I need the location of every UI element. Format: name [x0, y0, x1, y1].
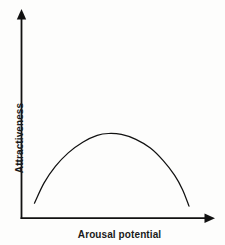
x-axis-arrowhead-icon	[205, 213, 216, 223]
chart-plot-area	[0, 0, 225, 245]
y-axis-label: Attractiveness	[15, 73, 27, 203]
y-axis-arrowhead-icon	[17, 9, 26, 20]
x-axis-label: Arousal potential	[0, 230, 225, 240]
data-curve-inverted-u	[34, 133, 189, 206]
chart-figure: Attractiveness Arousal potential	[0, 0, 225, 245]
